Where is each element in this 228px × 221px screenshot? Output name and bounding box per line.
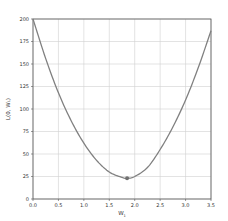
y-tick-label: 0 [26, 196, 29, 202]
y-tick-label: 75 [23, 128, 29, 134]
x-tick-label: 0.5 [54, 202, 62, 208]
x-tick-label: 2.0 [131, 202, 139, 208]
x-tick-label: 1.0 [80, 202, 88, 208]
y-tick-label: 100 [19, 106, 29, 112]
x-tick-label: 2.5 [156, 202, 164, 208]
x-tick-label: 3.0 [182, 202, 190, 208]
grid-lines [33, 19, 211, 199]
loss-chart: 0.00.51.01.52.02.53.03.50255075100125150… [0, 0, 228, 221]
y-tick-label: 50 [23, 151, 29, 157]
y-tick-label: 200 [19, 16, 29, 22]
x-tick-label: 1.5 [105, 202, 113, 208]
y-axis-label: L(0, W₁) [5, 98, 11, 120]
loss-curve [33, 19, 211, 178]
y-tick-label: 125 [19, 83, 29, 89]
x-tick-label: 0.0 [29, 202, 37, 208]
y-tick-label: 175 [19, 38, 29, 44]
minimum-marker [125, 176, 129, 180]
y-tick-label: 25 [23, 173, 29, 179]
y-tick-label: 150 [19, 61, 29, 67]
x-axis-label: W1 [118, 210, 126, 218]
x-tick-label: 3.5 [207, 202, 215, 208]
x-axis-label-subscript: 1 [124, 214, 126, 218]
